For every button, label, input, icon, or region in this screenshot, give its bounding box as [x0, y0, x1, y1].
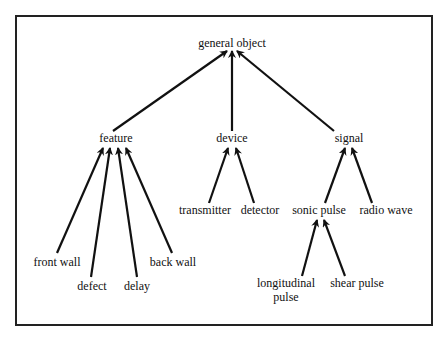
node-device: device — [216, 131, 247, 145]
node-longitudinal-pulse-line1: longitudinal — [257, 276, 315, 290]
node-detector: detector — [241, 203, 280, 217]
edge-longitudinal_pulse-to-sonic_pulse — [302, 220, 317, 276]
node-shear-pulse: shear pulse — [330, 276, 384, 290]
node-radio-wave: radio wave — [360, 203, 413, 217]
node-feature: feature — [99, 131, 132, 145]
node-sonic-pulse: sonic pulse — [292, 203, 346, 217]
edge-back_wall-to-feature — [126, 148, 172, 253]
edge-signal-to-root — [237, 51, 334, 131]
edge-feature-to-root — [113, 51, 227, 131]
edge-sonic_pulse-to-signal — [325, 148, 345, 203]
node-general-object: general object — [198, 36, 266, 50]
node-longitudinal-pulse: longitudinal pulse — [257, 276, 315, 304]
edge-detector-to-device — [236, 148, 254, 203]
node-signal: signal — [335, 131, 364, 145]
node-delay: delay — [124, 279, 150, 293]
node-front-wall: front wall — [34, 255, 81, 269]
edge-transmitter-to-device — [209, 148, 228, 203]
node-transmitter: transmitter — [179, 203, 231, 217]
node-longitudinal-pulse-line2: pulse — [257, 290, 315, 304]
node-defect: defect — [77, 279, 106, 293]
edge-shear_pulse-to-sonic_pulse — [324, 220, 345, 276]
edge-radio_wave-to-signal — [352, 148, 372, 203]
node-back-wall: back wall — [150, 255, 196, 269]
